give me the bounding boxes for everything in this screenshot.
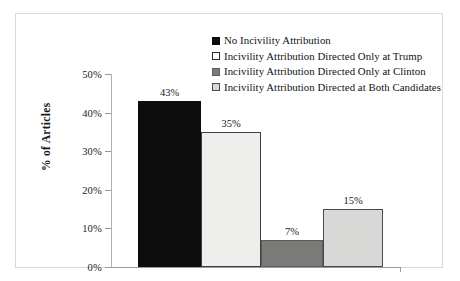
legend-item-label: Incivility Attribution Directed Only at …: [224, 51, 422, 62]
bar-value-label: 43%: [160, 87, 179, 98]
bar-value-label: 15%: [343, 195, 362, 206]
bar: 35%: [201, 132, 261, 267]
legend-item: No Incivility Attribution: [212, 33, 452, 49]
x-axis-end-tick: [400, 267, 401, 272]
bar-value-label: 35%: [221, 118, 240, 129]
y-axis-title: % of Articles: [40, 103, 52, 171]
bar: 15%: [323, 209, 383, 267]
bar: 43%: [138, 101, 201, 267]
legend-swatch-icon: [212, 83, 220, 91]
chart-frame: % of Articles 50%40%30%20%10%0% 43%35%7%…: [15, 13, 443, 268]
y-axis-tick-label: 20%: [82, 184, 102, 195]
legend-item: Incivility Attribution Directed Only at …: [212, 49, 452, 65]
y-axis-tick-label: 30%: [82, 146, 102, 157]
y-axis-tick-mark: [105, 228, 111, 229]
bar: 7%: [261, 240, 323, 267]
y-axis-tick-mark: [105, 267, 111, 268]
bar-value-label: 7%: [285, 226, 299, 237]
legend-item: Incivility Attribution Directed at Both …: [212, 80, 452, 96]
legend-item: Incivility Attribution Directed Only at …: [212, 64, 452, 80]
legend-item-label: No Incivility Attribution: [224, 35, 331, 46]
legend-item-label: Incivility Attribution Directed Only at …: [224, 66, 426, 77]
y-axis-tick-label: 50%: [82, 69, 102, 80]
plot-area: 50%40%30%20%10%0% 43%35%7%15%: [111, 74, 401, 267]
y-axis-tick-mark: [105, 151, 111, 152]
y-axis-tick-mark: [105, 190, 111, 191]
y-axis-tick-label: 10%: [82, 223, 102, 234]
y-axis-tick-mark: [105, 113, 111, 114]
y-axis-line: [111, 74, 112, 267]
y-axis-tick-label: 0%: [88, 262, 102, 273]
legend-swatch-icon: [212, 68, 220, 76]
legend-item-label: Incivility Attribution Directed at Both …: [224, 82, 441, 93]
y-axis-tick-mark: [105, 74, 111, 75]
x-axis-line: [111, 267, 401, 268]
legend-swatch-icon: [212, 37, 220, 45]
chart-figure: % of Articles 50%40%30%20%10%0% 43%35%7%…: [0, 0, 460, 281]
y-axis-tick-label: 40%: [82, 107, 102, 118]
chart-legend: No Incivility AttributionIncivility Attr…: [212, 33, 452, 95]
legend-swatch-icon: [212, 52, 220, 60]
